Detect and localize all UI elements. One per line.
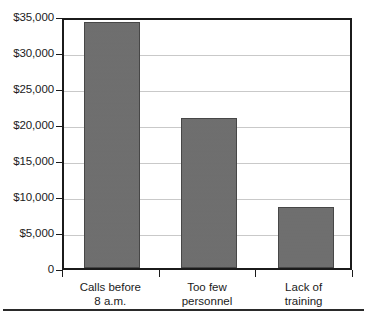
- y-axis-tick-label: $10,000: [0, 192, 54, 204]
- y-axis-tick-label: $30,000: [0, 48, 54, 60]
- y-axis-tick-label: $15,000: [0, 156, 54, 168]
- y-axis-tick-label: 0: [0, 264, 54, 276]
- y-axis-tick-label: $20,000: [0, 120, 54, 132]
- y-axis-tick-label: $5,000: [0, 228, 54, 240]
- x-axis-tick-mark: [255, 270, 256, 277]
- x-axis-tick-mark: [62, 270, 63, 277]
- y-axis-tick-label: $35,000: [0, 12, 54, 24]
- bottom-divider: [3, 309, 364, 311]
- y-axis-tick-label: $25,000: [0, 84, 54, 96]
- bar: [84, 22, 140, 268]
- bar: [278, 207, 334, 268]
- x-axis-tick-mark: [159, 270, 160, 277]
- x-axis-category-label: Too few personnel: [159, 281, 256, 308]
- bar: [181, 118, 237, 268]
- plot-area: [62, 18, 352, 270]
- x-axis-tick-mark: [352, 270, 353, 277]
- bar-series: [64, 20, 350, 268]
- x-axis-category-label: Lack of training: [255, 281, 352, 308]
- x-axis-category-label: Calls before 8 a.m.: [62, 281, 159, 308]
- bar-chart-figure: 0$5,000$10,000$15,000$20,000$25,000$30,0…: [0, 0, 367, 318]
